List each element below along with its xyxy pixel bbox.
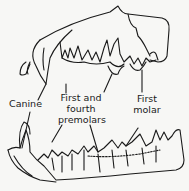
premolars-label: First and fourth premolars — [58, 92, 104, 125]
molar-label-line1: First — [132, 93, 162, 104]
premolar-leader-lower-right — [90, 125, 98, 152]
molar-label-line2: molar — [132, 104, 162, 115]
premolars-label-line2: fourth — [58, 103, 104, 114]
premolars-label-line3: premolars — [58, 114, 104, 125]
upper-jaw — [20, 6, 169, 84]
molar-label: First molar — [132, 93, 162, 115]
premolars-label-line1: First and — [58, 92, 104, 103]
canine-label: Canine — [9, 98, 42, 109]
lower-jaw — [8, 122, 184, 182]
premolar-leader-lower-left — [52, 125, 62, 142]
molar-leader-lower — [126, 128, 138, 146]
premolar-leader-upper-right — [104, 74, 112, 92]
